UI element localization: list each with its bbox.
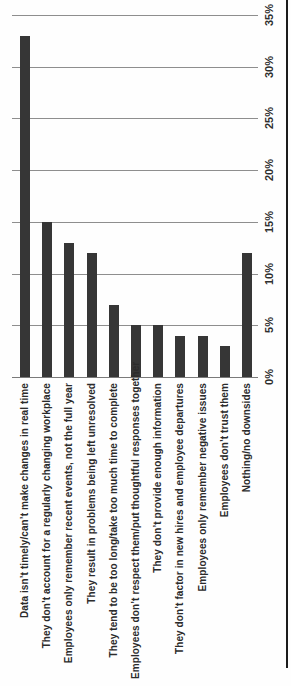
category-label: Employees don’t respect them/put thought… — [129, 383, 143, 679]
bar — [20, 36, 30, 377]
value-axis-tick-label: 0% — [262, 355, 276, 399]
bar — [109, 305, 119, 377]
bar — [87, 253, 97, 377]
bar — [242, 253, 252, 377]
value-axis-tick-label: 15% — [262, 200, 276, 244]
category-label: They tend to be too long/take too much t… — [107, 383, 121, 679]
category-label: Employees don’t trust them — [218, 383, 232, 679]
category-label: They don’t provide enough information — [151, 383, 165, 679]
gridline-25% — [12, 118, 258, 119]
category-label: They don’t factor in new hires and emplo… — [173, 383, 187, 679]
bar — [64, 243, 74, 378]
category-label: They result in problems being left unres… — [85, 383, 99, 679]
category-label: Employees only remember recent events, n… — [62, 383, 76, 679]
gridline-30% — [12, 67, 258, 68]
value-axis-tick-label: 10% — [262, 252, 276, 296]
bar — [220, 346, 230, 377]
value-axis-tick-label: 30% — [262, 45, 276, 89]
value-axis-tick-label: 35% — [262, 0, 276, 37]
bar — [175, 336, 185, 377]
category-label: Data isn’t timely/can’t make changes in … — [18, 383, 32, 679]
category-label: Employees only remember negative issues — [196, 383, 210, 679]
bar-chart: 0%5%10%15%20%25%30%35% Data isn’t timely… — [0, 0, 291, 686]
bar — [42, 222, 52, 377]
value-axis-tick-label: 25% — [262, 96, 276, 140]
value-axis-tick-label: 20% — [262, 148, 276, 192]
right-axis-border-line — [286, 0, 288, 668]
category-label: They don’t account for a regularly chang… — [40, 383, 54, 679]
value-axis-tick-label: 5% — [262, 303, 276, 347]
gridline-20% — [12, 170, 258, 171]
category-label: Nothing/no downsides — [240, 383, 254, 679]
bar — [153, 325, 163, 377]
bar — [198, 336, 208, 377]
gridline-35% — [12, 15, 258, 16]
